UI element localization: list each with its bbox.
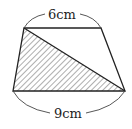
top-base-label: 6cm bbox=[48, 7, 76, 22]
shaded-triangle bbox=[13, 28, 125, 91]
top-dimension-arc-right bbox=[80, 14, 101, 28]
bottom-dimension-arc-right bbox=[86, 91, 125, 113]
bottom-base-label: 9cm bbox=[54, 106, 82, 121]
top-dimension-arc-left bbox=[24, 14, 45, 28]
trapezoid-diagram: 6cm 9cm bbox=[0, 0, 132, 129]
bottom-dimension-arc-left bbox=[13, 91, 50, 113]
